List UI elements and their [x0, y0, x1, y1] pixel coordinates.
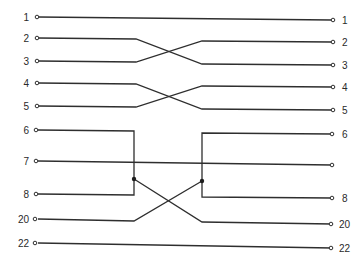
terminal-icon — [33, 241, 37, 245]
left-pin-labels: 1 2 3 4 5 6 7 8 20 22 — [18, 12, 30, 249]
left-pin-label: 1 — [23, 12, 29, 23]
junction-dot-right — [200, 179, 204, 183]
left-pin-label: 7 — [23, 156, 29, 167]
terminal-icon — [331, 63, 335, 67]
terminal-icon — [329, 246, 333, 250]
left-pin-label: 5 — [23, 101, 29, 112]
junction-dot-left — [132, 177, 136, 181]
terminal-icon — [330, 132, 334, 136]
left-pin-label: 22 — [18, 238, 30, 249]
terminal-icon — [35, 15, 39, 19]
terminal-icon — [35, 81, 39, 85]
left-pin-label: 8 — [23, 189, 29, 200]
wire-1-to-1 — [38, 17, 332, 20]
terminal-icon — [35, 104, 39, 108]
right-pin-label: 22 — [339, 243, 351, 254]
wire-3-to-2 — [38, 41, 332, 62]
terminal-icon — [34, 128, 38, 132]
terminal-icon — [331, 85, 335, 89]
right-pin-label: 3 — [342, 60, 348, 71]
right-pin-labels: 1 2 3 4 5 6 8 20 22 — [339, 15, 351, 254]
wires — [38, 17, 332, 248]
jumper-right-6-8 — [202, 133, 332, 198]
terminal-icon — [35, 36, 39, 40]
terminal-icon — [331, 18, 335, 22]
terminal-icon — [331, 108, 335, 112]
right-pin-label: 20 — [339, 219, 351, 230]
wire-22-to-22 — [38, 243, 332, 248]
wire-6-8-to-20 — [134, 179, 332, 224]
right-pin-label: 1 — [342, 15, 348, 26]
right-terminals — [329, 18, 335, 250]
terminal-icon — [35, 59, 39, 63]
left-pin-label: 2 — [23, 33, 29, 44]
left-pin-label: 4 — [23, 78, 29, 89]
wire-5-to-4 — [38, 86, 332, 107]
wire-20-to-6-8 — [38, 181, 202, 221]
terminal-icon — [330, 163, 334, 167]
right-pin-label: 2 — [342, 37, 348, 48]
wiring-diagram: 1 2 3 4 5 6 7 8 20 22 1 2 3 4 5 6 8 20 2… — [0, 0, 364, 263]
terminal-icon — [34, 192, 38, 196]
terminal-icon — [329, 222, 333, 226]
terminal-icon — [33, 217, 37, 221]
terminal-icon — [331, 40, 335, 44]
right-pin-label: 8 — [342, 193, 348, 204]
right-pin-label: 5 — [342, 105, 348, 116]
right-pin-label: 6 — [342, 129, 348, 140]
left-pin-label: 20 — [18, 214, 30, 225]
left-pin-label: 6 — [23, 125, 29, 136]
wire-7-to-7 — [38, 161, 332, 165]
left-terminals — [33, 15, 39, 245]
right-pin-label: 4 — [342, 82, 348, 93]
left-pin-label: 3 — [23, 56, 29, 67]
terminal-icon — [330, 196, 334, 200]
terminal-icon — [34, 159, 38, 163]
